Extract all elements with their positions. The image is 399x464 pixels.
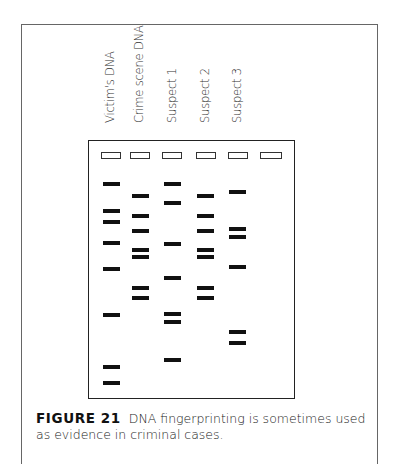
dna-band	[103, 220, 120, 224]
dna-band	[229, 330, 246, 334]
figure-caption: FIGURE 21DNA fingerprinting is sometimes…	[36, 410, 366, 443]
dna-band	[103, 267, 120, 271]
dna-band	[132, 194, 149, 198]
lane-label: Suspect 3	[230, 68, 244, 123]
gel-well	[130, 152, 150, 159]
dna-band	[132, 214, 149, 218]
lane-label: Suspect 2	[198, 68, 212, 123]
dna-band	[229, 190, 246, 194]
gel-well	[260, 152, 282, 159]
dna-band	[229, 227, 246, 231]
dna-band	[197, 255, 214, 259]
dna-band	[229, 341, 246, 345]
dna-band	[132, 286, 149, 290]
dna-band	[164, 312, 181, 316]
figure-label: FIGURE 21	[36, 410, 121, 426]
dna-band	[103, 313, 120, 317]
dna-band	[132, 248, 149, 252]
dna-band	[132, 229, 149, 233]
dna-band	[164, 276, 181, 280]
dna-band	[164, 358, 181, 362]
gel-well	[228, 152, 248, 159]
dna-band	[197, 194, 214, 198]
lane-label: Suspect 1	[165, 68, 179, 123]
dna-band	[103, 209, 120, 213]
dna-band	[164, 182, 181, 186]
dna-band	[132, 255, 149, 259]
dna-band	[197, 296, 214, 300]
lane-label: Crime scene DNA	[132, 25, 146, 123]
lane-label: Victim's DNA	[103, 51, 117, 123]
dna-band	[103, 381, 120, 385]
dna-band	[164, 320, 181, 324]
dna-band	[197, 229, 214, 233]
gel-well	[101, 152, 121, 159]
dna-band	[164, 242, 181, 246]
gel-well	[162, 152, 182, 159]
dna-band	[197, 248, 214, 252]
dna-band	[164, 201, 181, 205]
dna-band	[229, 265, 246, 269]
dna-band	[103, 241, 120, 245]
dna-band	[197, 286, 214, 290]
dna-band	[103, 182, 120, 186]
dna-band	[229, 235, 246, 239]
dna-band	[197, 214, 214, 218]
dna-band	[132, 296, 149, 300]
gel-well	[196, 152, 216, 159]
dna-band	[103, 365, 120, 369]
